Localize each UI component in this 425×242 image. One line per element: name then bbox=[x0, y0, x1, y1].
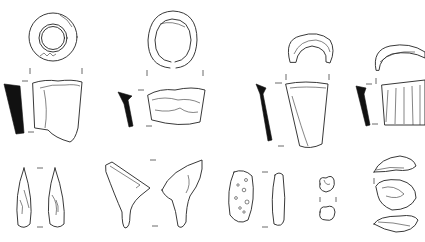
artifact-2-profile bbox=[118, 70, 205, 127]
artifact-3-fragment-top-view bbox=[288, 34, 333, 63]
artifact-4-profile bbox=[356, 78, 425, 126]
artifact-8-small-bead-pair bbox=[320, 176, 336, 220]
artifact-1-profile bbox=[4, 68, 82, 142]
artifact-9-shell-fragment-stack bbox=[374, 156, 418, 232]
artifact-2-ring-top-view bbox=[148, 11, 197, 68]
artifact-7-oval-pebble-pair bbox=[229, 171, 285, 227]
artifact-4-fragment-top-view bbox=[375, 45, 425, 70]
artifact-drawing-plate bbox=[0, 0, 425, 242]
artifact-6-pendant-pair bbox=[106, 160, 202, 228]
artifact-1-ring-top-view bbox=[29, 13, 77, 61]
artifact-3-profile bbox=[256, 74, 329, 148]
artifact-5-pendant-pair bbox=[17, 168, 64, 227]
